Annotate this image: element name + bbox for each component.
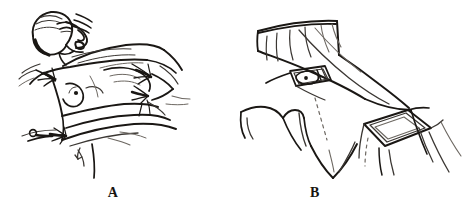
panel-b-illustration xyxy=(233,0,466,213)
patient-face xyxy=(57,22,87,65)
fenestration-axilla xyxy=(364,108,443,146)
surgical-cap xyxy=(33,12,73,55)
fenestration-chest xyxy=(290,66,331,86)
panel-b-label: B xyxy=(303,186,327,200)
nipple-marker-b xyxy=(304,76,308,80)
panel-a-illustration xyxy=(0,0,233,213)
drape-sheet xyxy=(258,24,411,110)
nipple-marker xyxy=(74,91,78,95)
chest-torso xyxy=(52,68,170,140)
drape-top-edge xyxy=(257,21,339,55)
drape-sheet-lower xyxy=(22,124,176,178)
towel-clip-mid-right xyxy=(132,86,150,116)
drape-fold-bottom xyxy=(311,98,357,178)
panel-a-label: A xyxy=(101,186,125,200)
figure-root: A B xyxy=(0,0,466,213)
arm-extended xyxy=(148,66,190,115)
drape-fold-left xyxy=(241,107,311,150)
towel-clip-lower-left xyxy=(30,127,66,144)
drape-edge-dashed xyxy=(315,98,327,140)
